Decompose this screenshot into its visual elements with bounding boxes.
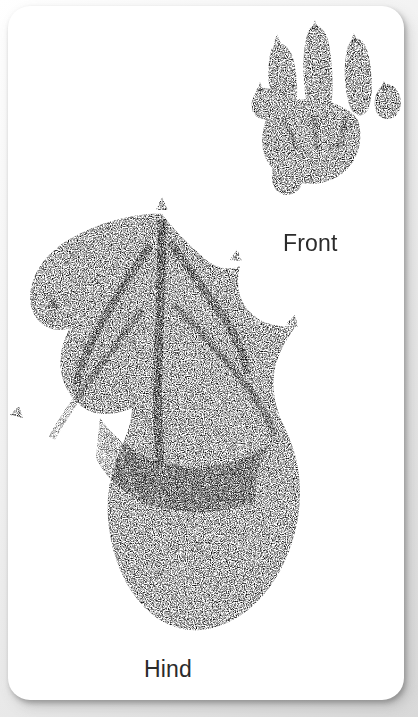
track-illustration-canvas: [8, 6, 404, 700]
hind-foot-print: [10, 197, 300, 630]
page-background: Front Hind: [0, 0, 418, 717]
front-print-label: Front: [283, 230, 338, 257]
track-identification-card: Front Hind: [8, 6, 404, 700]
hind-print-label: Hind: [144, 656, 192, 683]
front-paw-print: [252, 20, 401, 195]
front-paw-ink: [252, 26, 401, 195]
